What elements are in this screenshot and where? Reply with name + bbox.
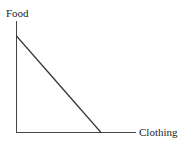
diagram-canvas <box>0 0 184 144</box>
budget-line <box>17 36 102 133</box>
y-axis-label: Food <box>6 8 29 19</box>
x-axis-label: Clothing <box>139 127 178 138</box>
